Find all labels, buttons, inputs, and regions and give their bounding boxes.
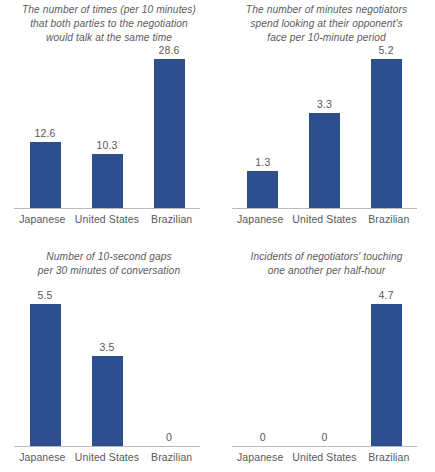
baseline-axis xyxy=(232,446,417,447)
bar-slot: 28.6 xyxy=(138,43,200,208)
plot-area: 12.6 10.3 28.6 Japanese United States Br… xyxy=(0,0,218,236)
bar-slot: 3.3 xyxy=(294,43,356,208)
baseline-axis xyxy=(14,446,200,447)
bar-value-label: 0 xyxy=(260,431,266,443)
plot-area: 0 0 4.7 Japanese United States Brazilian xyxy=(218,236,435,472)
bar-value-label: 4.7 xyxy=(379,289,394,301)
plot-area: 5.5 3.5 0 Japanese United States Brazili… xyxy=(0,236,218,472)
bar-value-label: 12.6 xyxy=(34,127,55,139)
bar-slot: 1.3 xyxy=(232,43,294,208)
bar-value-label: 5.2 xyxy=(379,44,394,56)
category-label-japanese: Japanese xyxy=(10,451,75,464)
chart-grid: The number of times (per 10 minutes) tha… xyxy=(0,0,435,472)
bar-slot: 0 xyxy=(294,288,356,446)
bar-slot: 4.7 xyxy=(355,288,417,446)
bar-group: 1.3 3.3 5.2 xyxy=(232,43,417,208)
bar-value-label: 3.5 xyxy=(99,341,114,353)
bar-value-label: 10.3 xyxy=(96,139,117,151)
chart-panel-bottom-left: Number of 10-second gaps per 30 minutes … xyxy=(0,236,218,472)
bar-rect xyxy=(309,113,340,208)
category-axis-labels: Japanese United States Brazilian xyxy=(10,451,204,464)
category-label-japanese: Japanese xyxy=(228,451,292,464)
category-label-brazilian: Brazilian xyxy=(357,451,421,464)
bar-group: 5.5 3.5 0 xyxy=(14,288,200,446)
bar-value-label: 28.6 xyxy=(158,44,179,56)
bar-slot: 3.5 xyxy=(76,288,138,446)
bar-slot: 5.5 xyxy=(14,288,76,446)
chart-panel-top-right: The number of minutes negotiators spend … xyxy=(218,0,435,236)
bar-rect xyxy=(371,59,402,208)
bar-value-label: 3.3 xyxy=(317,98,332,110)
bar-slot: 0 xyxy=(232,288,294,446)
bar-rect xyxy=(371,304,402,446)
bar-rect xyxy=(30,304,61,446)
bar-slot: 5.2 xyxy=(355,43,417,208)
bar-rect xyxy=(92,356,123,446)
baseline-axis xyxy=(14,208,200,209)
category-axis-labels: Japanese United States Brazilian xyxy=(228,451,421,464)
baseline-axis xyxy=(232,208,417,209)
bar-group: 12.6 10.3 28.6 xyxy=(14,43,200,208)
bar-group: 0 0 4.7 xyxy=(232,288,417,446)
category-label-united-states: United States xyxy=(292,213,356,226)
category-axis-labels: Japanese United States Brazilian xyxy=(10,213,204,226)
bar-rect xyxy=(247,171,278,208)
bar-rect xyxy=(92,154,123,208)
category-axis-labels: Japanese United States Brazilian xyxy=(228,213,421,226)
plot-area: 1.3 3.3 5.2 Japanese United States Brazi… xyxy=(218,0,435,236)
bar-value-label: 5.5 xyxy=(37,289,52,301)
category-label-united-states: United States xyxy=(75,451,140,464)
bar-slot: 0 xyxy=(138,288,200,446)
category-label-japanese: Japanese xyxy=(10,213,75,226)
category-label-brazilian: Brazilian xyxy=(139,451,204,464)
chart-panel-bottom-right: Incidents of negotiators' touching one a… xyxy=(218,236,435,472)
bar-slot: 10.3 xyxy=(76,43,138,208)
bar-value-label: 0 xyxy=(166,431,172,443)
category-label-united-states: United States xyxy=(75,213,140,226)
category-label-united-states: United States xyxy=(292,451,356,464)
category-label-brazilian: Brazilian xyxy=(139,213,204,226)
bar-slot: 12.6 xyxy=(14,43,76,208)
chart-panel-top-left: The number of times (per 10 minutes) tha… xyxy=(0,0,218,236)
category-label-brazilian: Brazilian xyxy=(357,213,421,226)
bar-rect xyxy=(30,142,61,208)
bar-rect xyxy=(154,59,185,208)
bar-value-label: 1.3 xyxy=(255,156,270,168)
category-label-japanese: Japanese xyxy=(228,213,292,226)
bar-value-label: 0 xyxy=(321,431,327,443)
